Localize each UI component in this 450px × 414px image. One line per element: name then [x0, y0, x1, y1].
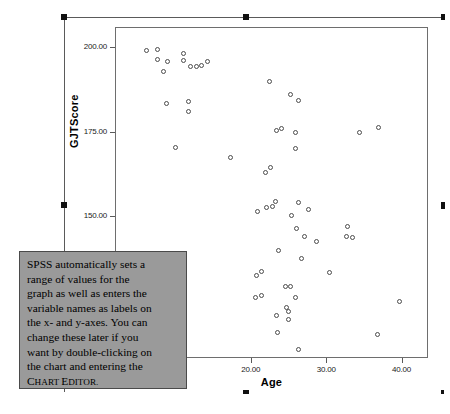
- scatter-point: [288, 284, 293, 289]
- x-axis-tick-mark: [402, 358, 403, 363]
- x-axis-tick-label: 40.00: [372, 365, 432, 374]
- scatter-point: [255, 209, 260, 214]
- y-axis-tick-label: 150.00: [84, 211, 107, 220]
- chart-editor-term-part: HART: [35, 377, 62, 387]
- scatter-point: [286, 309, 291, 314]
- resize-handle-middle-right[interactable]: [441, 202, 445, 209]
- chart-editor-term-part: DITOR.: [68, 377, 98, 387]
- scatter-point: [254, 273, 259, 278]
- scatter-point: [345, 224, 350, 229]
- resize-handle-top-right[interactable]: [441, 14, 445, 20]
- scatter-point: [344, 234, 349, 239]
- scatter-point: [296, 347, 301, 352]
- x-axis-tick-label: 30.00: [296, 365, 356, 374]
- scatter-point: [264, 205, 269, 210]
- scatter-point: [199, 63, 204, 68]
- scatter-point: [294, 226, 299, 231]
- scatter-point: [306, 207, 311, 212]
- scatter-point: [375, 332, 380, 337]
- resize-handle-top-center[interactable]: [243, 14, 249, 20]
- scatter-point: [181, 58, 186, 63]
- scatter-point: [357, 130, 362, 135]
- resize-handle-bottom-center[interactable]: [243, 390, 249, 394]
- scatter-point: [274, 313, 279, 318]
- scatter-point: [288, 92, 293, 97]
- scatter-point: [279, 126, 284, 131]
- scatter-point: [299, 256, 304, 261]
- x-axis-tick-mark: [251, 358, 252, 363]
- y-axis-tick-label: 200.00: [84, 42, 107, 51]
- scatter-point: [253, 295, 258, 300]
- y-axis-title: GJTScore: [68, 94, 80, 148]
- x-axis-tick-mark: [326, 358, 327, 363]
- scatter-point: [188, 64, 193, 69]
- spss-chart-screenshot: 200.00175.00150.00125.00 GJTScore 10.002…: [0, 0, 450, 414]
- scatter-point: [273, 199, 278, 204]
- selection-top-edge: [64, 17, 444, 18]
- scatter-point: [286, 317, 291, 322]
- scatter-point: [397, 299, 402, 304]
- scatter-point: [275, 330, 280, 335]
- scatter-point: [186, 99, 191, 104]
- chart-editor-term-part: C: [27, 375, 35, 387]
- scatter-point: [161, 69, 166, 74]
- scatter-point: [289, 213, 294, 218]
- scatter-point: [186, 109, 191, 114]
- scatter-point: [296, 200, 301, 205]
- scatter-point: [267, 79, 272, 84]
- scatter-point: [173, 145, 178, 150]
- resize-handle-top-left[interactable]: [61, 14, 67, 20]
- scatter-point: [350, 235, 355, 240]
- scatter-point: [165, 59, 170, 64]
- annotation-callout-text: SPSS automatically sets arange of values…: [27, 257, 179, 389]
- scatter-point: [270, 204, 275, 209]
- scatter-point: [164, 101, 169, 106]
- y-axis-tick-label: 175.00: [84, 127, 107, 136]
- scatter-point: [155, 57, 160, 62]
- resize-handle-middle-left[interactable]: [61, 202, 67, 208]
- annotation-callout: SPSS automatically sets arange of values…: [19, 251, 187, 389]
- scatter-point: [276, 248, 281, 253]
- scatter-point: [144, 48, 149, 53]
- scatter-point: [327, 270, 332, 275]
- scatter-point: [194, 64, 199, 69]
- x-axis-tick-label: 20.00: [221, 365, 281, 374]
- scatter-point: [314, 239, 319, 244]
- scatter-point: [376, 125, 381, 130]
- scatter-point: [259, 293, 264, 298]
- scatter-point: [263, 170, 268, 175]
- scatter-point: [268, 165, 273, 170]
- scatter-point: [155, 47, 160, 52]
- scatter-point: [293, 130, 298, 135]
- scatter-point: [205, 59, 210, 64]
- scatter-point: [293, 295, 298, 300]
- scatter-point: [296, 98, 301, 103]
- scatter-point: [293, 146, 298, 151]
- resize-handle-bottom-right[interactable]: [441, 390, 444, 394]
- scatter-point: [181, 51, 186, 56]
- scatter-point: [259, 269, 264, 274]
- scatter-point: [228, 155, 233, 160]
- scatter-point: [302, 234, 307, 239]
